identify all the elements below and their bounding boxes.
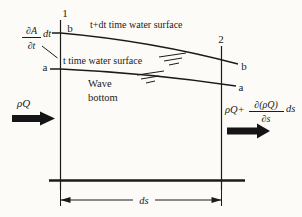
inflow-arrow-icon bbox=[12, 112, 55, 126]
outflow-ds-label: ds bbox=[286, 103, 295, 114]
outflow-denominator: ∂s bbox=[262, 113, 271, 124]
section-2-label: 2 bbox=[218, 33, 224, 45]
t-plus-dt-surface-label: t+dt time water surface bbox=[90, 19, 183, 30]
inflow-label: ρQ bbox=[16, 97, 30, 109]
t-surface-label: t time water surface bbox=[63, 55, 143, 66]
storage-numerator: ∂A bbox=[26, 25, 38, 36]
storage-denominator: ∂t bbox=[28, 40, 36, 51]
wave-bottom-label-line1: Wave bbox=[88, 78, 112, 89]
point-a-right-label: a bbox=[239, 81, 244, 93]
wave-bottom-label-line2: bottom bbox=[88, 92, 118, 103]
dimension-arrow-left-icon bbox=[61, 197, 71, 203]
outflow-numerator: ∂(ρQ) bbox=[254, 99, 278, 111]
control-volume-diagram: 1 2 b a b a t+dt time water surface t ti… bbox=[0, 0, 302, 217]
section-1-label: 1 bbox=[62, 7, 68, 19]
point-b-right-label: b bbox=[241, 60, 247, 72]
t-water-surface-curve bbox=[50, 69, 236, 86]
outflow-arrow-icon bbox=[227, 124, 270, 139]
dimension-ds-label: ds bbox=[139, 195, 148, 206]
diagram-svg: 1 2 b a b a t+dt time water surface t ti… bbox=[0, 0, 302, 217]
leader-line bbox=[42, 46, 58, 58]
water-surface-icon bbox=[159, 53, 186, 65]
storage-dt-label: dt bbox=[43, 28, 52, 39]
point-a-left-label: a bbox=[43, 61, 48, 73]
dimension-arrow-right-icon bbox=[212, 197, 222, 203]
outflow-prefix-label: ρQ+ bbox=[224, 104, 245, 115]
point-b-left-label: b bbox=[67, 22, 73, 34]
